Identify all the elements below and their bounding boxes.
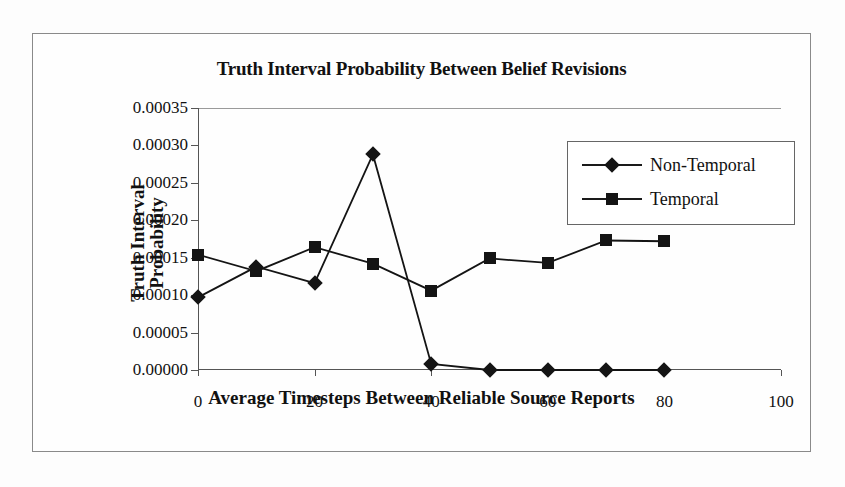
data-point-square [600, 234, 612, 246]
x-tick [198, 370, 199, 376]
x-tick [781, 370, 782, 376]
x-tick-label: 40 [423, 392, 440, 412]
y-tick-label: 0.00035 [133, 98, 188, 118]
x-axis-title: Average Timesteps Between Reliable Sourc… [33, 387, 810, 409]
legend-label-non-temporal: Non-Temporal [650, 155, 756, 176]
x-tick-label: 80 [656, 392, 673, 412]
y-tick-label: 0.00020 [133, 210, 188, 230]
legend-entry-temporal: Temporal [568, 182, 794, 216]
y-tick-label: 0.00010 [133, 285, 188, 305]
y-axis-title: Truth Interval Probability [128, 184, 167, 301]
x-tick-label: 20 [306, 392, 323, 412]
data-point-square [250, 265, 262, 277]
x-tick-label: 100 [768, 392, 794, 412]
y-axis-title-line-1: Truth Interval [128, 184, 147, 301]
data-point-square [542, 257, 554, 269]
y-tick [191, 108, 198, 109]
legend-marker-square-icon [582, 192, 642, 206]
x-tick [315, 370, 316, 376]
data-point-square [425, 285, 437, 297]
data-point-square [367, 258, 379, 270]
chart-legend: Non-Temporal Temporal [567, 141, 795, 225]
legend-entry-non-temporal: Non-Temporal [568, 148, 794, 182]
figure-frame: Truth Interval Probability Between Belie… [32, 33, 811, 452]
x-tick-label: 60 [539, 392, 556, 412]
y-tick-label: 0.00025 [133, 173, 188, 193]
y-tick [191, 145, 198, 146]
data-point-square [484, 252, 496, 264]
legend-marker-diamond-icon [582, 158, 642, 172]
y-axis-title-line-2: Probability [148, 184, 167, 301]
chart-title: Truth Interval Probability Between Belie… [33, 58, 810, 80]
x-tick-label: 0 [194, 392, 203, 412]
y-tick-label: 0.00030 [133, 135, 188, 155]
y-tick-label: 0.00015 [133, 248, 188, 268]
y-tick [191, 183, 198, 184]
y-tick [191, 220, 198, 221]
y-tick-label: 0.00000 [133, 360, 188, 380]
y-tick [191, 333, 198, 334]
legend-label-temporal: Temporal [650, 189, 719, 210]
data-point-square [658, 235, 670, 247]
data-point-square [192, 249, 204, 261]
series-line-temporal [198, 241, 664, 291]
data-point-square [309, 241, 321, 253]
y-tick [191, 370, 198, 371]
y-tick-label: 0.00005 [133, 323, 188, 343]
